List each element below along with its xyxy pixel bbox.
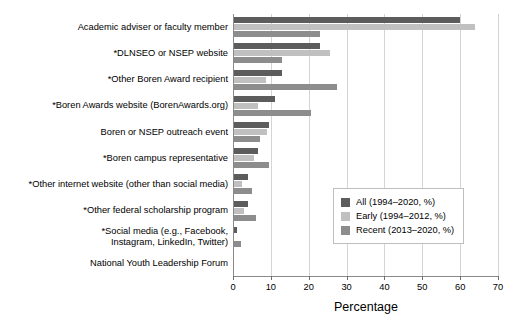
y-axis-label: *Other internet website (other than soci… [0,179,228,190]
x-axis-tick-label: 10 [256,282,286,292]
bar [233,136,260,142]
x-axis-tick [460,276,461,280]
bar [233,122,269,128]
x-axis-tick [347,276,348,280]
y-axis-label: *Boren campus representative [0,153,228,164]
x-axis-tick-label: 60 [445,282,475,292]
x-axis-tick [233,276,234,280]
bar [233,181,242,187]
x-axis-tick [384,276,385,280]
legend-item-all[interactable]: All (1994–2020, %) [341,195,454,209]
bar [233,24,475,30]
bar [233,155,254,161]
bar [233,215,256,221]
bar [233,57,282,63]
y-axis-label: *Other Boren Award recipient [0,74,228,85]
x-axis-tick [422,276,423,280]
chart-legend: All (1994–2020, %) Early (1994–2012, %) … [333,188,464,244]
y-axis-line [233,14,234,276]
legend-label: Recent (2013–2020, %) [356,225,454,235]
x-axis-tick-label: 50 [407,282,437,292]
y-axis-label: *DLNSEO or NSEP website [0,48,228,59]
x-axis-title: Percentage [233,300,499,314]
x-axis-tick-label: 40 [369,282,399,292]
y-axis-label: *Boren Awards website (BorenAwards.org) [0,100,228,111]
bar [233,31,320,37]
x-axis-tick [309,276,310,280]
bar [233,208,244,214]
bar [233,50,330,56]
x-axis-tick [271,276,272,280]
bar [233,174,248,180]
legend-item-recent[interactable]: Recent (2013–2020, %) [341,223,454,237]
x-axis-tick-label: 20 [294,282,324,292]
bar [233,201,248,207]
y-axis-label: Academic adviser or faculty member [0,22,228,33]
legend-label: All (1994–2020, %) [356,197,435,207]
bar-chart: Academic adviser or faculty member*DLNSE… [0,0,519,331]
legend-swatch-icon [341,226,350,235]
legend-item-early[interactable]: Early (1994–2012, %) [341,209,454,223]
bar [233,77,266,83]
y-axis-label: National Youth Leadership Forum [0,258,228,269]
bar [233,241,241,247]
x-axis-tick-label: 0 [218,282,248,292]
x-axis-tick [498,276,499,280]
x-axis-line [233,276,499,277]
bar [233,103,258,109]
bar [233,129,267,135]
y-axis-label: Boren or NSEP outreach event [0,127,228,138]
bar [233,84,337,90]
bar [233,162,269,168]
legend-swatch-icon [341,198,350,207]
y-axis-label: *Other federal scholarship program [0,205,228,216]
y-axis-label: *Social media (e.g., Facebook, Instagram… [0,226,228,248]
bar [233,70,282,76]
bar [233,96,275,102]
x-axis-tick-label: 30 [332,282,362,292]
y-axis-labels: Academic adviser or faculty member*DLNSE… [0,14,228,276]
legend-swatch-icon [341,212,350,221]
x-axis-tick-label: 70 [483,282,513,292]
bar [233,148,258,154]
bar [233,110,311,116]
legend-label: Early (1994–2012, %) [356,211,446,221]
gridline [498,14,499,276]
bar [233,17,460,23]
bar [233,43,320,49]
bar [233,188,252,194]
